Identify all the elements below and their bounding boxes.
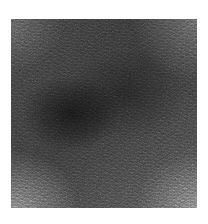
noise-texture-patch xyxy=(11,19,197,208)
fine-grain-layer xyxy=(11,19,197,208)
image-canvas xyxy=(0,0,208,224)
